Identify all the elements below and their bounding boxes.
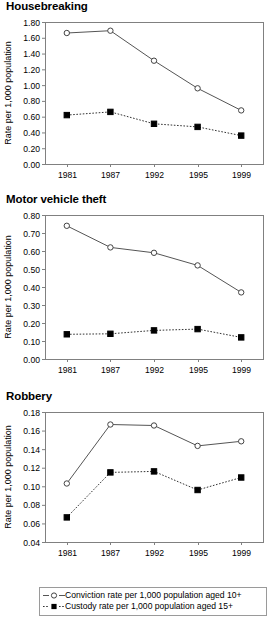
data-point-custody-rate: [195, 326, 200, 331]
data-point-conviction-rate: [108, 245, 113, 250]
data-point-custody-rate: [195, 487, 200, 492]
y-axis-tick-label: 1.20: [23, 65, 40, 75]
chart-title-housebreaking: Housebreaking: [6, 0, 274, 13]
filled-square-marker-icon: [43, 601, 65, 612]
chart-panel-robbery: Robbery 0.040.060.080.100.120.140.160.18…: [0, 390, 274, 570]
x-axis-tick-label: 1992: [145, 170, 164, 180]
y-axis-title: Rate per 1,000 population: [3, 235, 13, 339]
data-point-custody-rate: [239, 335, 244, 340]
plot-area-frame: [46, 413, 264, 543]
data-point-conviction-rate: [239, 290, 244, 295]
data-point-custody-rate: [108, 470, 113, 475]
data-point-custody-rate: [239, 133, 244, 138]
y-axis-tick-label: 1.40: [23, 49, 40, 59]
series-line-custody-rate: [67, 471, 241, 517]
x-axis-tick-label: 1995: [189, 170, 208, 180]
y-axis-tick-label: 0.04: [23, 538, 40, 548]
x-axis-tick-label: 1995: [189, 365, 208, 375]
x-axis-tick-label: 1992: [145, 548, 164, 558]
y-axis-tick-label: 0.18: [23, 408, 40, 418]
y-axis-tick-label: 1.80: [23, 18, 40, 28]
x-axis-tick-label: 1981: [58, 170, 77, 180]
chart-plot-housebreaking: 0.000.200.400.600.801.001.201.401.601.80…: [0, 14, 274, 192]
data-point-conviction-rate: [108, 422, 113, 427]
legend-label-conviction-rate: Conviction rate per 1,000 population age…: [65, 590, 242, 601]
x-axis-tick-label: 1987: [101, 170, 120, 180]
y-axis-tick-label: 0.08: [23, 500, 40, 510]
y-axis-tick-label: 0.40: [23, 128, 40, 138]
y-axis-tick-label: 0.06: [23, 519, 40, 529]
y-axis-tick-label: 0.14: [23, 445, 40, 455]
figure-legend: Conviction rate per 1,000 population age…: [39, 587, 267, 616]
y-axis-tick-label: 0.80: [23, 211, 40, 221]
chart-title-motor-vehicle-theft: Motor vehicle theft: [6, 193, 274, 206]
chart-panel-housebreaking: Housebreaking 0.000.200.400.600.801.001.…: [0, 0, 274, 193]
x-axis-tick-label: 1987: [101, 365, 120, 375]
data-point-custody-rate: [151, 469, 156, 474]
x-axis-tick-label: 1999: [232, 548, 251, 558]
data-point-custody-rate: [195, 124, 200, 129]
x-axis-tick-label: 1987: [101, 548, 120, 558]
y-axis-tick-label: 0.00: [23, 160, 40, 170]
data-point-conviction-rate: [64, 30, 69, 35]
y-axis-tick-label: 0.50: [23, 265, 40, 275]
plot-area-frame: [46, 23, 264, 165]
data-point-custody-rate: [108, 331, 113, 336]
y-axis-tick-label: 1.00: [23, 81, 40, 91]
x-axis-tick-label: 1981: [58, 365, 77, 375]
figure-container: Housebreaking 0.000.200.400.600.801.001.…: [0, 0, 274, 629]
y-axis-tick-label: 0.10: [23, 337, 40, 347]
data-point-custody-rate: [64, 332, 69, 337]
data-point-custody-rate: [108, 109, 113, 114]
y-axis-tick-label: 0.00: [23, 355, 40, 365]
line-chart-svg-motor-vehicle-theft: 0.000.100.200.300.400.500.600.700.801981…: [0, 207, 274, 387]
x-axis-tick-label: 1999: [232, 170, 251, 180]
data-point-conviction-rate: [151, 423, 156, 428]
data-point-conviction-rate: [239, 439, 244, 444]
x-axis-tick-label: 1992: [145, 365, 164, 375]
data-point-conviction-rate: [151, 250, 156, 255]
y-axis-tick-label: 0.16: [23, 426, 40, 436]
y-axis-title: Rate per 1,000 population: [3, 41, 13, 145]
data-point-conviction-rate: [64, 481, 69, 486]
y-axis-tick-label: 0.20: [23, 319, 40, 329]
plot-area-frame: [46, 216, 264, 360]
data-point-conviction-rate: [239, 108, 244, 113]
data-point-custody-rate: [64, 515, 69, 520]
chart-plot-motor-vehicle-theft: 0.000.100.200.300.400.500.600.700.801981…: [0, 207, 274, 387]
y-axis-tick-label: 0.30: [23, 301, 40, 311]
data-point-conviction-rate: [195, 86, 200, 91]
series-line-conviction-rate: [67, 226, 241, 293]
data-point-custody-rate: [151, 328, 156, 333]
y-axis-title: Rate per 1,000 population: [3, 425, 13, 529]
legend-item-custody-rate: Custody rate per 1,000 population aged 1…: [43, 601, 262, 612]
legend-label-custody-rate: Custody rate per 1,000 population aged 1…: [65, 601, 233, 612]
y-axis-tick-label: 0.10: [23, 482, 40, 492]
open-circle-marker-icon: [43, 590, 65, 601]
data-point-conviction-rate: [195, 263, 200, 268]
chart-panel-motor-vehicle-theft: Motor vehicle theft 0.000.100.200.300.40…: [0, 193, 274, 390]
y-axis-tick-label: 0.40: [23, 283, 40, 293]
chart-plot-robbery: 0.040.060.080.100.120.140.160.1819811987…: [0, 404, 274, 570]
y-axis-tick-label: 0.60: [23, 247, 40, 257]
y-axis-tick-label: 0.12: [23, 463, 40, 473]
y-axis-tick-label: 1.60: [23, 33, 40, 43]
data-point-custody-rate: [64, 112, 69, 117]
series-line-conviction-rate: [67, 31, 241, 111]
chart-title-robbery: Robbery: [6, 390, 274, 403]
line-chart-svg-housebreaking: 0.000.200.400.600.801.001.201.401.601.80…: [0, 14, 274, 192]
y-axis-tick-label: 0.20: [23, 144, 40, 154]
legend-item-conviction-rate: Conviction rate per 1,000 population age…: [43, 590, 262, 601]
data-point-conviction-rate: [64, 223, 69, 228]
data-point-custody-rate: [239, 475, 244, 480]
line-chart-svg-robbery: 0.040.060.080.100.120.140.160.1819811987…: [0, 404, 274, 570]
y-axis-tick-label: 0.70: [23, 229, 40, 239]
data-point-conviction-rate: [108, 28, 113, 33]
x-axis-tick-label: 1981: [58, 548, 77, 558]
data-point-conviction-rate: [195, 443, 200, 448]
data-point-custody-rate: [151, 121, 156, 126]
y-axis-tick-label: 0.80: [23, 96, 40, 106]
series-line-conviction-rate: [67, 425, 241, 484]
y-axis-tick-label: 0.60: [23, 112, 40, 122]
data-point-conviction-rate: [151, 58, 156, 63]
